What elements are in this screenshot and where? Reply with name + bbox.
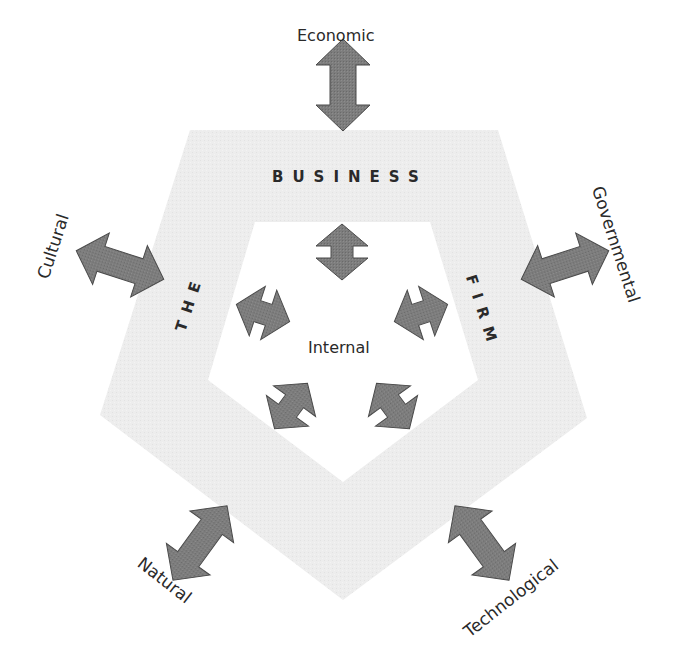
- business-environment-diagram: BUSINESS THE FIRM Internal Economic Gove…: [0, 0, 686, 666]
- internal-arrow-top: [316, 224, 368, 280]
- internal-arrow-left: [228, 280, 297, 347]
- internal-arrow-right: [386, 280, 455, 347]
- diagram-canvas: [0, 0, 686, 666]
- ring-word-business: BUSINESS: [272, 170, 428, 185]
- internal-label: Internal: [308, 340, 370, 356]
- economic-arrow: [316, 39, 370, 131]
- pentagon-ring: [100, 130, 587, 600]
- economic-label: Economic: [297, 28, 374, 44]
